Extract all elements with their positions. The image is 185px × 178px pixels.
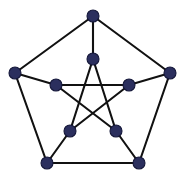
graph-edge-pentagram-top-bottomright: [93, 59, 116, 131]
graph-edge-pentagon-bottomleft-left: [15, 73, 47, 163]
graph-edge-pentagon-top-right: [93, 16, 170, 73]
graph-vertex-inner-bottom-left: [64, 125, 76, 137]
graph-edge-pentagon-left-top: [15, 16, 93, 73]
graph-vertex-outer-bottom-right: [133, 157, 145, 169]
edge-layer: [15, 16, 170, 163]
graph-vertex-outer-top: [87, 10, 99, 22]
graph-edge-pentagram-bottomright-left: [56, 85, 116, 131]
graph-vertex-inner-bottom-right: [110, 125, 122, 137]
graph-vertex-inner-top: [87, 53, 99, 65]
graph-vertex-outer-left: [9, 67, 21, 79]
petersen-graph-figure: [0, 0, 185, 178]
graph-vertex-inner-right: [123, 79, 135, 91]
graph-canvas: [0, 0, 185, 178]
graph-edge-pentagram-bottomleft-top: [70, 59, 93, 131]
graph-edge-pentagon-right-bottomright: [139, 73, 170, 163]
graph-vertex-outer-right: [164, 67, 176, 79]
graph-vertex-outer-bottom-left: [41, 157, 53, 169]
graph-vertex-inner-left: [50, 79, 62, 91]
graph-edge-pentagram-right-bottomleft: [70, 85, 129, 131]
